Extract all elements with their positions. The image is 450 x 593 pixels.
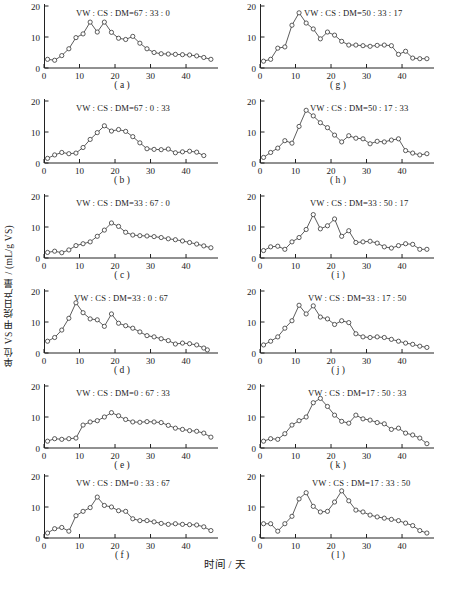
data-point-i — [396, 244, 400, 248]
data-point-d — [67, 316, 71, 320]
chart-panel-b: VW : CS : DM=67 : 0 : 3301020010203040( … — [18, 95, 226, 190]
data-point-l — [340, 489, 344, 493]
data-point-j — [396, 339, 400, 343]
data-point-e — [202, 431, 206, 435]
data-point-i — [382, 245, 386, 249]
data-point-a — [116, 36, 120, 40]
data-point-e — [116, 414, 120, 418]
data-point-g — [375, 43, 379, 47]
data-point-a — [131, 34, 135, 38]
y-tick-label-k-20: 20 — [247, 382, 257, 392]
data-point-c — [159, 235, 163, 239]
data-point-f — [95, 495, 99, 499]
data-point-i — [354, 240, 358, 244]
y-tick-label-c-0: 0 — [36, 254, 41, 264]
y-tick-label-a-10: 10 — [31, 33, 41, 43]
data-point-i — [340, 234, 344, 238]
data-point-b — [95, 131, 99, 135]
data-point-d — [145, 334, 149, 338]
y-tick-label-d-10: 10 — [31, 318, 41, 328]
data-point-i — [411, 242, 415, 246]
axis-lines-k — [261, 384, 435, 448]
data-point-c — [152, 235, 156, 239]
data-point-f — [116, 509, 120, 513]
data-point-d — [81, 311, 85, 315]
data-point-f — [138, 519, 142, 523]
data-point-h — [340, 140, 344, 144]
data-point-c — [102, 228, 106, 232]
data-point-b — [88, 137, 92, 141]
data-point-i — [304, 227, 308, 231]
data-point-e — [152, 420, 156, 424]
data-point-d — [95, 318, 99, 322]
panel-caption-h: ( h ) — [234, 175, 442, 185]
data-point-b — [138, 141, 142, 145]
data-point-d — [74, 301, 78, 305]
data-point-e — [81, 423, 85, 427]
data-point-e — [187, 429, 191, 433]
data-point-d — [159, 337, 163, 341]
data-point-i — [332, 217, 336, 221]
data-point-j — [325, 317, 329, 321]
plot-area-e: 01020010203040 — [44, 386, 218, 448]
data-point-j — [389, 337, 393, 341]
data-point-b — [124, 129, 128, 133]
y-tick-label-g-0: 0 — [252, 64, 257, 74]
data-point-a — [173, 52, 177, 56]
y-tick-label-i-0: 0 — [252, 254, 257, 264]
plot-area-c: 01020010203040 — [44, 196, 218, 258]
panel-caption-a: ( a ) — [18, 80, 226, 90]
plot-area-a: 01020010203040 — [44, 6, 218, 68]
y-tick-label-b-20: 20 — [31, 97, 41, 107]
plot-area-l: 01020010203040 — [260, 476, 434, 538]
data-point-k — [354, 413, 358, 417]
data-point-h — [396, 137, 400, 141]
data-point-k — [368, 418, 372, 422]
data-point-i — [269, 245, 273, 249]
data-point-k — [389, 427, 393, 431]
data-point-c — [67, 248, 71, 252]
y-tick-label-e-0: 0 — [36, 444, 41, 454]
data-point-l — [411, 524, 415, 528]
data-point-g — [283, 45, 287, 49]
data-point-g — [354, 43, 358, 47]
data-point-j — [304, 312, 308, 316]
y-tick-label-j-10: 10 — [247, 318, 257, 328]
data-point-a — [159, 52, 163, 56]
y-tick-label-i-10: 10 — [247, 223, 257, 233]
chart-panel-f: VW : CS : DM=0 : 33 : 6701020010203040( … — [18, 470, 226, 565]
data-point-c — [109, 221, 113, 225]
data-point-l — [261, 522, 265, 526]
data-point-c — [124, 230, 128, 234]
data-point-j — [361, 335, 365, 339]
data-point-l — [269, 522, 273, 526]
chart-panel-h: VW : CS : DM=50 : 17 : 3301020010203040(… — [234, 95, 442, 190]
y-tick-label-c-10: 10 — [31, 223, 41, 233]
data-point-c — [88, 240, 92, 244]
data-point-i — [347, 229, 351, 233]
data-point-a — [60, 54, 64, 58]
data-point-i — [311, 213, 315, 217]
data-point-d — [166, 339, 170, 343]
y-tick-label-b-0: 0 — [36, 159, 41, 169]
y-tick-label-e-10: 10 — [31, 413, 41, 423]
chart-panel-j: VW : CS : DM=33 : 17 : 5001020010203040(… — [234, 285, 442, 380]
data-point-c — [195, 242, 199, 246]
data-point-f — [187, 523, 191, 527]
data-point-c — [180, 239, 184, 243]
data-point-h — [297, 124, 301, 128]
y-tick-label-a-0: 0 — [36, 64, 41, 74]
data-point-h — [318, 121, 322, 125]
data-point-e — [166, 423, 170, 427]
data-point-k — [290, 423, 294, 427]
data-point-k — [375, 420, 379, 424]
data-point-g — [325, 30, 329, 34]
plot-area-b: 01020010203040 — [44, 101, 218, 163]
data-point-k — [325, 404, 329, 408]
data-point-j — [418, 344, 422, 348]
data-point-a — [195, 54, 199, 58]
data-point-h — [261, 155, 265, 159]
data-point-g — [382, 43, 386, 47]
series-line-e — [48, 413, 211, 442]
data-point-d — [205, 348, 209, 352]
